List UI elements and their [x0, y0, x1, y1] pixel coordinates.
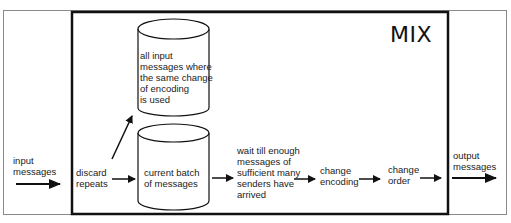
store-label: all input messages where the same change… [140, 50, 213, 105]
encoding-label: change encoding [320, 165, 359, 187]
mix-title: MIX [390, 22, 432, 47]
mix-diagram: MIX all input messages where the same ch… [0, 0, 511, 223]
discard-label: discard repeats [76, 167, 108, 189]
input-label: input messages [13, 155, 56, 177]
output-label: output messages [453, 150, 496, 172]
order-label: change order [388, 164, 419, 186]
wait-label: wait till enough messages of sufficient … [237, 145, 300, 200]
batch-label: current batch of messages [144, 167, 199, 189]
